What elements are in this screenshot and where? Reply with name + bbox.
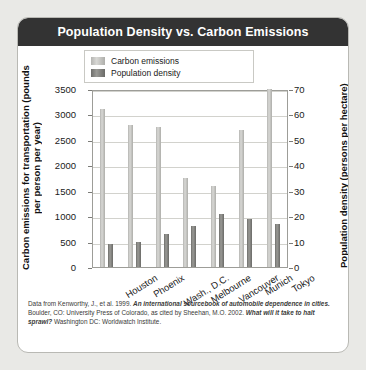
y-axis-left-tick-label: 500	[36, 238, 76, 248]
bar-population-density	[247, 219, 252, 267]
caption-part2: Boulder, CO: University Press of Colorad…	[28, 309, 246, 316]
y-axis-right-title: Population density (persons per hectare)	[338, 76, 349, 276]
x-axis-tick-label: Tokyo	[290, 272, 317, 294]
y-axis-left-tick-mark	[88, 268, 92, 269]
y-axis-left-tick-label: 3500	[36, 85, 76, 95]
legend-swatch-carbon-icon	[91, 57, 105, 65]
chart-card: Population Density vs. Carbon Emissions …	[17, 17, 349, 353]
y-axis-left-tick-label: 2500	[36, 136, 76, 146]
caption-em1: An international sourcebook of automobil…	[133, 300, 330, 307]
y-axis-left-tick-mark	[88, 192, 92, 193]
legend-label-density: Population density	[111, 68, 180, 78]
y-axis-left-tick-mark	[88, 166, 92, 167]
plot-frame	[92, 90, 288, 268]
bar-carbon-emissions	[128, 125, 133, 267]
bar-group	[239, 91, 252, 267]
y-axis-right-tick-label: 60	[294, 110, 324, 120]
y-axis-left-tick-label: 0	[36, 263, 76, 273]
y-axis-left-tick-mark	[88, 243, 92, 244]
y-axis-left-tick-label: 1000	[36, 212, 76, 222]
y-axis-right-tick-label: 70	[294, 85, 324, 95]
y-axis-right-tick-mark	[289, 192, 293, 193]
bar-group	[156, 91, 169, 267]
y-axis-right-tick-mark	[289, 166, 293, 167]
page-title: Population Density vs. Carbon Emissions	[57, 25, 308, 39]
y-axis-left-tick-label: 2000	[36, 161, 76, 171]
plot-area: Carbon emissions Population density Carb…	[18, 46, 349, 294]
y-axis-right-tick-mark	[289, 268, 293, 269]
bar-population-density	[136, 242, 141, 267]
legend-item-population-density: Population density	[91, 67, 247, 78]
y-axis-right-tick-mark	[289, 115, 293, 116]
y-axis-right-tick-mark	[289, 243, 293, 244]
y-axis-left-tick-mark	[88, 141, 92, 142]
bar-group	[211, 91, 224, 267]
bar-carbon-emissions	[183, 178, 188, 267]
caption-part1: Data from Kenworthy, J., et al. 1999.	[28, 300, 133, 307]
bar-series-container	[93, 91, 287, 267]
bar-group	[128, 91, 141, 267]
y-axis-right-tick-label: 50	[294, 136, 324, 146]
y-axis-right-tick-mark	[289, 141, 293, 142]
bar-population-density	[275, 224, 280, 267]
y-axis-right-tick-label: 40	[294, 161, 324, 171]
bar-group	[100, 91, 113, 267]
y-axis-right-tick-mark	[289, 90, 293, 91]
x-axis-tick-label: Houston	[123, 272, 159, 300]
bar-carbon-emissions	[100, 109, 105, 267]
legend-item-carbon-emissions: Carbon emissions	[91, 55, 247, 66]
y-axis-left-tick-label: 1500	[36, 187, 76, 197]
bar-carbon-emissions	[156, 127, 161, 267]
bar-population-density	[191, 226, 196, 267]
legend-swatch-density-icon	[91, 69, 105, 77]
y-axis-left-tick-mark	[88, 115, 92, 116]
bar-carbon-emissions	[267, 89, 272, 267]
legend-label-carbon: Carbon emissions	[111, 56, 179, 66]
caption-part3: Washington DC: Worldwatch Institute.	[52, 318, 161, 325]
y-axis-right-tick-label: 20	[294, 212, 324, 222]
y-axis-right-tick-label: 0	[294, 263, 324, 273]
bar-carbon-emissions	[239, 130, 244, 267]
chart-title-bar: Population Density vs. Carbon Emissions	[18, 18, 348, 46]
y-axis-right-tick-label: 30	[294, 187, 324, 197]
chart-legend: Carbon emissions Population density	[84, 50, 254, 83]
y-axis-left-tick-mark	[88, 217, 92, 218]
y-axis-left-tick-label: 3000	[36, 110, 76, 120]
bar-carbon-emissions	[211, 186, 216, 267]
y-axis-left-tick-mark	[88, 90, 92, 91]
bar-population-density	[219, 214, 224, 267]
bar-population-density	[164, 234, 169, 267]
y-axis-right-tick-mark	[289, 217, 293, 218]
bar-group	[267, 91, 280, 267]
bar-population-density	[108, 244, 113, 267]
source-caption: Data from Kenworthy, J., et al. 1999. An…	[28, 299, 340, 327]
y-axis-right-tick-label: 10	[294, 238, 324, 248]
bar-group	[183, 91, 196, 267]
